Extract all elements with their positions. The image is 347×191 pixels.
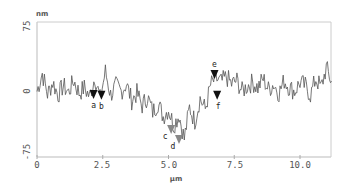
marker-e-label: e bbox=[212, 60, 217, 69]
y-tick-0: 0 bbox=[22, 88, 32, 93]
marker-group: abcdef bbox=[90, 60, 222, 151]
y-unit-label: nm bbox=[36, 10, 48, 18]
marker-f-triangle-icon bbox=[213, 91, 221, 100]
marker-a-label: a bbox=[91, 101, 96, 110]
height-profile-chart: nm 75 0 -75 0 2.5 5.0 7.5 10.0 μm abcdef bbox=[0, 0, 347, 191]
marker-d-label: d bbox=[171, 142, 176, 151]
y-tick-75: 75 bbox=[22, 21, 32, 32]
marker-d-triangle-icon bbox=[175, 135, 183, 144]
x-tick-5.0: 5.0 bbox=[161, 160, 177, 170]
x-tick-7.5: 7.5 bbox=[227, 160, 243, 170]
marker-c-label: c bbox=[163, 132, 168, 141]
x-tick-2.5: 2.5 bbox=[94, 160, 110, 170]
marker-a-triangle-icon bbox=[90, 90, 98, 99]
marker-b-triangle-icon bbox=[97, 91, 105, 100]
x-tick-0: 0 bbox=[34, 160, 39, 170]
marker-b-label: b bbox=[99, 102, 104, 111]
marker-f-label: f bbox=[216, 102, 221, 111]
profile-line bbox=[37, 62, 332, 140]
x-unit-label: μm bbox=[170, 175, 182, 183]
x-tick-10.0: 10.0 bbox=[289, 160, 311, 170]
y-tick-neg75: -75 bbox=[22, 144, 32, 160]
